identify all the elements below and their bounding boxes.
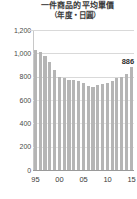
bar-00 (58, 77, 61, 170)
y-tick-0: 0 (0, 167, 31, 174)
y-tick-600: 600 (0, 97, 31, 104)
y-tick-1000: 1,000 (0, 50, 31, 57)
bar-series (33, 30, 134, 170)
x-tick-15: 15 (125, 176, 137, 184)
y-tick-200: 200 (0, 143, 31, 150)
y-axis-labels: 02004006008001,0001,200 (0, 0, 31, 199)
y-tick-400: 400 (0, 120, 31, 127)
bar-14 (125, 74, 128, 170)
bar-95 (34, 50, 37, 170)
x-tick-10: 10 (101, 176, 115, 184)
x-tick-95: 95 (28, 176, 42, 184)
bar-15 (130, 67, 133, 170)
bar-08 (96, 85, 99, 170)
bar-09 (101, 84, 104, 170)
bar-11 (111, 81, 114, 170)
bar-12 (115, 78, 118, 170)
x-axis-line (33, 170, 134, 171)
bar-13 (120, 77, 123, 170)
plot-area: 886 (33, 30, 134, 170)
bar-06 (87, 86, 90, 170)
y-tick-800: 800 (0, 73, 31, 80)
bar-slot (129, 30, 134, 170)
bar-05 (82, 83, 85, 170)
bar-96 (39, 52, 42, 170)
bar-07 (91, 87, 94, 170)
data-label-886: 886 (122, 58, 134, 66)
bar-10 (106, 83, 109, 171)
bar-04 (77, 81, 80, 170)
bar-02 (67, 80, 70, 170)
bar-97 (43, 56, 46, 170)
bar-03 (72, 80, 75, 170)
bar-98 (48, 62, 51, 171)
y-tick-1200: 1,200 (0, 27, 31, 34)
chart-container: 一件商品的平均單價 （年度・日圓） 02004006008001,0001,20… (0, 0, 137, 199)
x-tick-05: 05 (77, 176, 91, 184)
bar-99 (53, 70, 56, 170)
x-tick-00: 00 (52, 176, 66, 184)
x-axis-labels: 9500051015 (33, 176, 134, 190)
bar-01 (63, 78, 66, 170)
